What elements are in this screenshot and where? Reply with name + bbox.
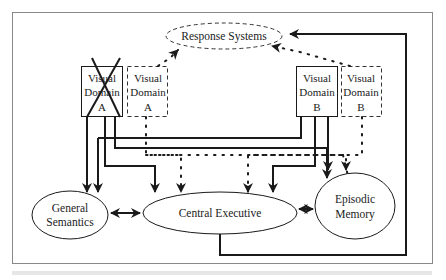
visual-domain-a-line3: A — [98, 101, 106, 113]
visual-domain-a-alt-line2: Domain — [130, 86, 166, 98]
general-semantics-line2: Semantics — [46, 216, 94, 228]
caption-strip — [12, 271, 432, 275]
visual-domain-b-line2: Domain — [299, 86, 335, 98]
visual-domain-a-alt-line1: Visual — [134, 72, 162, 84]
episodic-memory-node: Episodic Memory — [315, 173, 395, 239]
visual-domain-b-node: Visual Domain B — [297, 67, 338, 117]
episodic-memory-line1: Episodic — [335, 193, 375, 206]
visual-domain-a-alt-node: Visual Domain A — [128, 67, 168, 117]
visual-domain-b-alt-node: Visual Domain B — [342, 67, 382, 117]
central-executive-node: Central Executive — [143, 192, 297, 234]
visual-domain-b-alt-line2: Domain — [343, 86, 379, 98]
visual-domain-a-node: Visual Domain A — [82, 58, 123, 117]
visual-domain-b-alt-line1: Visual — [347, 72, 375, 84]
response-systems-node: Response Systems — [166, 23, 282, 49]
visual-domain-b-line3: B — [313, 101, 320, 113]
visual-domain-b-alt-line3: B — [357, 101, 364, 113]
episodic-memory-line2: Memory — [335, 208, 375, 221]
visual-domain-a-alt-line3: A — [144, 101, 152, 113]
general-semantics-line1: General — [52, 202, 88, 214]
visual-domain-b-line1: Visual — [303, 72, 331, 84]
general-semantics-node: General Semantics — [32, 191, 108, 239]
response-systems-label: Response Systems — [181, 30, 267, 43]
edges-visual-domain-b — [98, 117, 328, 192]
diagram-canvas: Response Systems Visual Domain A Visual … — [0, 0, 446, 280]
central-executive-label: Central Executive — [179, 207, 262, 219]
